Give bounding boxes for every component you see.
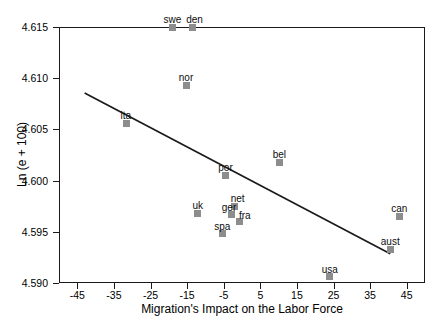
y-axis-tick-label: 4.595 bbox=[0, 227, 48, 238]
y-axis-tick bbox=[53, 232, 59, 233]
scatter-chart: 4.5904.5954.6004.6054.6104.615 -45-35-25… bbox=[0, 0, 446, 325]
x-axis-tick-label: -25 bbox=[131, 290, 171, 301]
data-point-label: can bbox=[379, 204, 419, 214]
data-point-label: uk bbox=[178, 201, 218, 211]
x-axis-tick-label: 5 bbox=[240, 290, 280, 301]
x-axis-tick-label: 25 bbox=[314, 290, 354, 301]
data-point-label: spa bbox=[202, 222, 242, 232]
y-axis-tick-label: 4.590 bbox=[0, 278, 48, 289]
data-point-label: por bbox=[206, 163, 246, 173]
y-axis-tick-label: 4.610 bbox=[0, 73, 48, 84]
x-axis-tick-label: -5 bbox=[204, 290, 244, 301]
data-point-label: bel bbox=[259, 150, 299, 160]
y-axis-title: Ln (e + 100) bbox=[16, 85, 29, 225]
data-point-label: den bbox=[175, 15, 215, 25]
data-point-label: aust bbox=[370, 237, 410, 247]
x-axis-tick-label: 15 bbox=[277, 290, 317, 301]
y-axis-tick-label: 4.615 bbox=[0, 22, 48, 33]
data-point-label: nor bbox=[166, 73, 206, 83]
x-axis-tick-label: -35 bbox=[94, 290, 134, 301]
x-axis-tick-label: 45 bbox=[387, 290, 427, 301]
y-axis-tick bbox=[53, 129, 59, 130]
y-axis-tick bbox=[53, 78, 59, 79]
x-axis-tick-label: -45 bbox=[57, 290, 97, 301]
x-axis-tick-label: -15 bbox=[167, 290, 207, 301]
data-point-label: fra bbox=[225, 211, 265, 221]
x-axis-title: Migration's Impact on the Labor Force bbox=[59, 303, 425, 316]
y-axis-tick bbox=[53, 283, 59, 284]
data-point-label: ita bbox=[106, 111, 146, 121]
y-axis-tick bbox=[53, 181, 59, 182]
data-point-label: usa bbox=[310, 265, 350, 275]
y-axis-tick bbox=[53, 27, 59, 28]
x-axis-tick-label: 35 bbox=[350, 290, 390, 301]
